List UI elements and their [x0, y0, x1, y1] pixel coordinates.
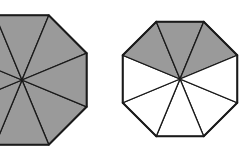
left-octagon: [0, 15, 87, 144]
right-octagon: [123, 22, 238, 137]
octagon-figure: [0, 0, 244, 155]
figure-canvas: [0, 0, 244, 155]
